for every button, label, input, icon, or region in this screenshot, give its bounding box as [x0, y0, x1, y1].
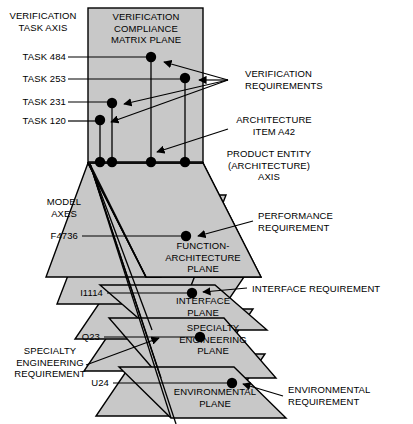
dot-base-4: [180, 157, 190, 167]
dot-base-2: [107, 157, 117, 167]
item-label-i1114: I1114: [38, 287, 103, 299]
axis-label-product-entity: PRODUCT ENTITY (ARCHITECTURE) AXIS: [208, 148, 330, 183]
axis-label-verification-task: VERIFICATION TASK AXIS: [2, 10, 84, 33]
callout-specialty-engineering-requirement: SPECIALTY ENGINEERING REQUIREMENT: [2, 345, 98, 380]
callout-interface-requirement: INTERFACE REQUIREMENT: [252, 283, 412, 295]
plane-label-matrix: VERIFICATION COMPLIANCE MATRIX PLANE: [92, 11, 200, 46]
item-label-q23: Q23: [40, 331, 100, 343]
diagram-canvas: VERIFICATION TASK AXIS VERIFICATION COMP…: [0, 0, 413, 424]
callout-performance-requirement: PERFORMANCE REQUIREMENT: [258, 210, 408, 233]
callout-environmental-requirement: ENVIRONMENTAL REQUIREMENT: [288, 384, 412, 407]
dot-base-1: [95, 157, 105, 167]
task-label-task253: TASK 253: [0, 73, 66, 85]
task-label-task120: TASK 120: [0, 115, 66, 127]
axis-label-model-axes: MODEL AXES: [32, 196, 96, 219]
dot-task253: [180, 73, 190, 83]
dot-task120: [95, 115, 105, 125]
item-label-f4736: F4736: [10, 230, 78, 242]
plane-label-environmental: ENVIRONMENTAL PLANE: [150, 386, 280, 409]
plane-label-interface: INTERFACE PLANE: [148, 295, 258, 318]
callout-verification-requirements: VERIFICATION REQUIREMENTS: [245, 68, 405, 91]
dot-task484: [146, 52, 156, 62]
plane-label-specialty-engineering: SPECIALTY ENGINEERING PLANE: [155, 322, 271, 357]
task-label-task231: TASK 231: [0, 96, 66, 108]
callout-architecture-item: ARCHITECTURE ITEM A42: [214, 114, 334, 137]
dot-base-3: [146, 157, 156, 167]
plane-label-function-architecture: FUNCTION- ARCHITECTURE PLANE: [145, 240, 261, 275]
dot-task231: [107, 98, 117, 108]
task-label-task484: TASK 484: [0, 51, 66, 63]
